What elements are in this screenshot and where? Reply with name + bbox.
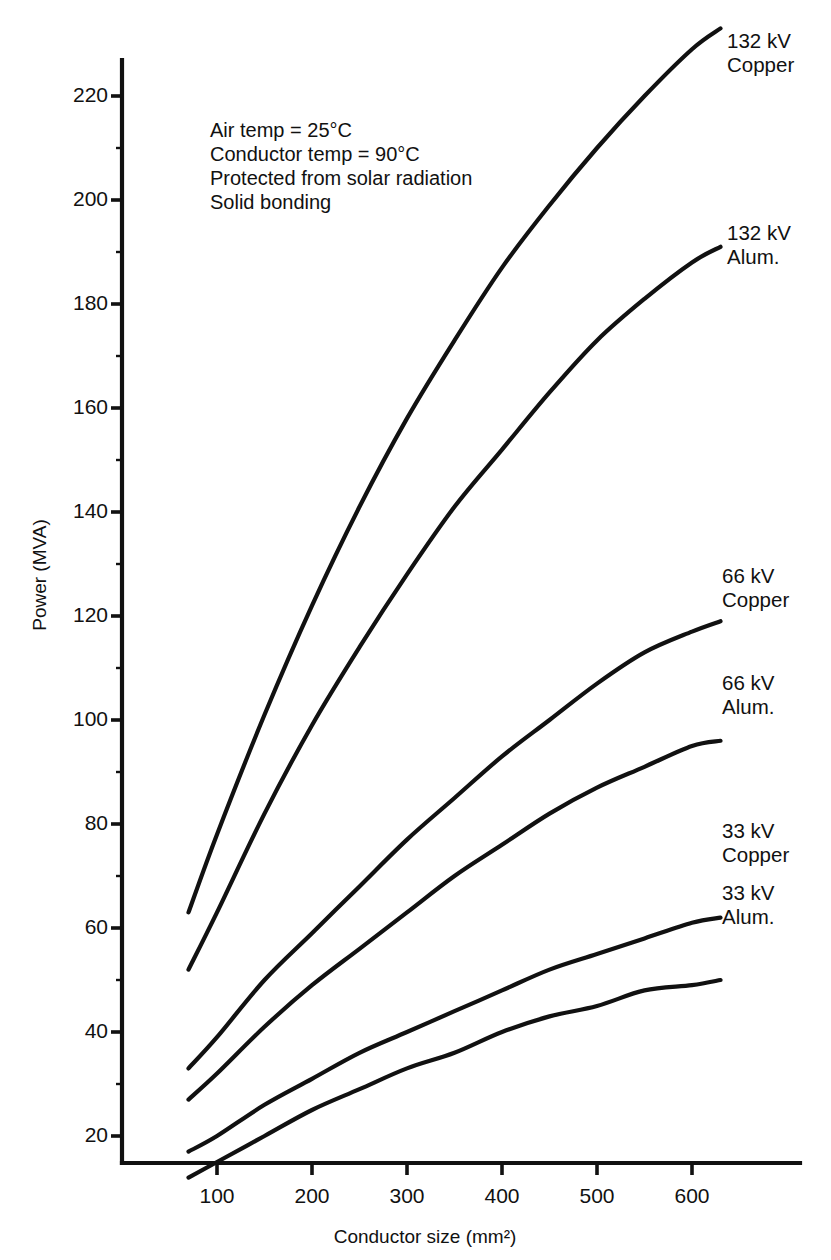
- note-line: Conductor temp = 90°C: [210, 143, 420, 165]
- series-label-33kv-alum: 33 kV Alum.: [722, 881, 775, 928]
- series-label-line: Copper: [727, 53, 794, 76]
- y-tick-label: 120: [73, 603, 108, 626]
- power-vs-conductor-size-chart: 20 40 60 80 100 120 140 160 180 200 220 …: [0, 0, 831, 1260]
- y-tick-label: 140: [73, 499, 108, 522]
- series-label-66kv-alum: 66 kV Alum.: [722, 671, 775, 718]
- x-axis-title: Conductor size (mm²): [334, 1226, 517, 1247]
- chart-figure: 20 40 60 80 100 120 140 160 180 200 220 …: [0, 0, 831, 1260]
- y-axis-title: Power (MVA): [29, 519, 50, 631]
- series-label-line: 33 kV: [722, 819, 775, 842]
- series-label-line: Copper: [722, 843, 789, 866]
- y-tick-label: 160: [73, 395, 108, 418]
- series-label-132kv-copper: 132 kV Copper: [727, 29, 794, 76]
- series-label-line: Alum.: [727, 245, 779, 268]
- x-tick-label: 100: [199, 1184, 234, 1207]
- series-label-line: Alum.: [722, 695, 774, 718]
- series-label-line: 66 kV: [722, 671, 775, 694]
- series-label-line: Copper: [722, 588, 789, 611]
- x-tick-label: 600: [674, 1184, 709, 1207]
- note-line: Solid bonding: [210, 191, 331, 213]
- x-tick-label: 400: [484, 1184, 519, 1207]
- y-tick-label: 200: [73, 187, 108, 210]
- y-tick-label: 40: [85, 1019, 108, 1042]
- note-line: Protected from solar radiation: [210, 167, 472, 189]
- y-tick-label: 180: [73, 291, 108, 314]
- y-tick-label: 100: [73, 707, 108, 730]
- series-label-line: 66 kV: [722, 564, 775, 587]
- y-tick-label: 60: [85, 915, 108, 938]
- series-label-line: 33 kV: [722, 881, 775, 904]
- chart-background: [0, 0, 831, 1260]
- series-label-line: 132 kV: [727, 29, 791, 52]
- note-line: Air temp = 25°C: [210, 119, 352, 141]
- series-label-line: Alum.: [722, 905, 774, 928]
- x-tick-label: 200: [294, 1184, 329, 1207]
- y-tick-label: 80: [85, 811, 108, 834]
- y-tick-label: 220: [73, 83, 108, 106]
- series-label-line: 132 kV: [727, 221, 791, 244]
- x-tick-label: 500: [579, 1184, 614, 1207]
- y-tick-label: 20: [85, 1123, 108, 1146]
- x-tick-label: 300: [389, 1184, 424, 1207]
